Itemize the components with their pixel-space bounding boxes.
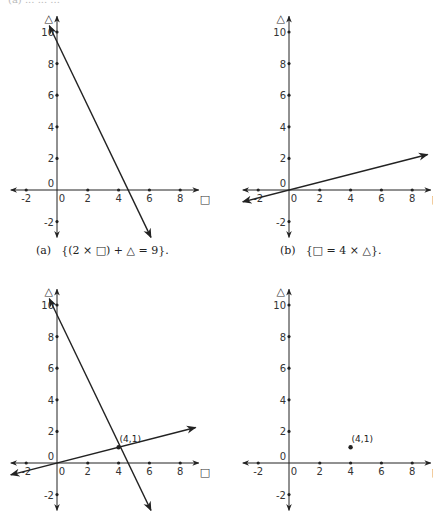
graph-line <box>49 299 151 511</box>
y-tick-dot <box>55 430 58 433</box>
y-tick-label: 2 <box>48 426 54 437</box>
y-tick-dot <box>287 94 290 97</box>
y-tick-label: -2 <box>276 217 286 228</box>
x-tick-label: 0 <box>59 193 65 204</box>
x-tick-label: 8 <box>177 193 183 204</box>
x-tick-dot <box>148 188 151 191</box>
graph-line <box>243 154 428 201</box>
x-tick-label: 0 <box>291 193 297 204</box>
y-tick-label: 8 <box>280 59 286 70</box>
y-tick-label: 0 <box>48 451 54 462</box>
y-tick-label: 4 <box>48 122 54 133</box>
y-tick-dot <box>287 30 290 33</box>
y-tick-dot <box>55 94 58 97</box>
x-tick-dot <box>318 188 321 191</box>
x-tick-dot <box>86 461 89 464</box>
graph-line <box>49 26 151 238</box>
y-tick-label: 0 <box>280 178 286 189</box>
solution-point-label: (4,1) <box>352 434 373 444</box>
y-tick-dot <box>287 125 290 128</box>
x-tick-label: 0 <box>59 466 65 477</box>
charts-svg: -202468-20246810□△-202468-20246810□△-202… <box>0 0 433 515</box>
y-axis-triangle-symbol: △ <box>45 285 54 298</box>
x-axis-square-symbol: □ <box>200 466 210 479</box>
x-tick-label: 4 <box>115 193 121 204</box>
y-tick-label: -2 <box>44 490 54 501</box>
y-tick-label: 6 <box>48 90 54 101</box>
y-tick-dot <box>55 62 58 65</box>
x-tick-dot <box>179 461 182 464</box>
y-axis-triangle-symbol: △ <box>45 12 54 25</box>
y-axis-triangle-symbol: △ <box>277 12 286 25</box>
y-tick-dot <box>287 367 290 370</box>
x-tick-label: 6 <box>378 466 384 477</box>
y-tick-label: 8 <box>48 332 54 343</box>
x-tick-dot <box>86 188 89 191</box>
y-tick-dot <box>287 430 290 433</box>
x-tick-dot <box>117 188 120 191</box>
x-tick-label: 6 <box>146 466 152 477</box>
solution-point <box>348 445 352 449</box>
caption-b-tag: (b) <box>280 244 296 257</box>
y-tick-label: 2 <box>48 153 54 164</box>
y-tick-label: 6 <box>280 90 286 101</box>
y-tick-label: -2 <box>44 217 54 228</box>
y-tick-label: 2 <box>280 153 286 164</box>
caption-a: (a){(2 × □) + △ = 9}. <box>36 244 169 257</box>
x-tick-dot <box>179 188 182 191</box>
x-tick-label: 4 <box>347 466 353 477</box>
x-tick-dot <box>380 188 383 191</box>
y-tick-dot <box>55 367 58 370</box>
y-tick-label: 4 <box>280 395 286 406</box>
chart-panel-b: -202468-20246810□△ <box>243 12 433 237</box>
x-tick-dot <box>411 461 414 464</box>
y-axis-triangle-symbol: △ <box>277 285 286 298</box>
x-tick-label: 6 <box>378 193 384 204</box>
x-tick-dot <box>257 461 260 464</box>
chart-panel-a: -202468-20246810□△ <box>11 12 210 237</box>
y-tick-label: 0 <box>280 451 286 462</box>
y-tick-dot <box>55 493 58 496</box>
y-tick-label: 8 <box>280 332 286 343</box>
x-tick-dot <box>25 461 28 464</box>
y-tick-label: 10 <box>273 300 286 311</box>
x-tick-label: 2 <box>317 193 323 204</box>
y-tick-dot <box>55 220 58 223</box>
y-tick-label: 4 <box>280 122 286 133</box>
y-tick-label: 4 <box>48 395 54 406</box>
x-tick-dot <box>257 188 260 191</box>
x-tick-label: 4 <box>347 193 353 204</box>
x-tick-dot <box>25 188 28 191</box>
x-tick-dot <box>380 461 383 464</box>
y-tick-label: 6 <box>48 363 54 374</box>
chart-panel-d: -202468-20246810□△(4,1) <box>243 285 433 510</box>
caption-b: (b){□ = 4 × △}. <box>280 244 381 257</box>
y-tick-dot <box>287 493 290 496</box>
y-tick-dot <box>287 220 290 223</box>
x-tick-label: 6 <box>146 193 152 204</box>
y-tick-dot <box>287 398 290 401</box>
y-tick-dot <box>55 125 58 128</box>
x-tick-dot <box>349 188 352 191</box>
x-tick-label: 8 <box>409 193 415 204</box>
y-tick-dot <box>55 30 58 33</box>
y-tick-dot <box>287 303 290 306</box>
y-tick-dot <box>55 398 58 401</box>
x-tick-dot <box>318 461 321 464</box>
y-tick-dot <box>287 62 290 65</box>
x-tick-label: -2 <box>21 193 31 204</box>
x-tick-label: 8 <box>409 466 415 477</box>
caption-a-text: {(2 × □) + △ = 9}. <box>61 244 169 257</box>
x-tick-dot <box>148 461 151 464</box>
x-axis-square-symbol: □ <box>200 193 210 206</box>
y-tick-dot <box>55 157 58 160</box>
y-tick-label: 2 <box>280 426 286 437</box>
y-tick-dot <box>55 303 58 306</box>
x-tick-label: 2 <box>317 466 323 477</box>
x-tick-label: 2 <box>85 193 91 204</box>
y-tick-label: 8 <box>48 59 54 70</box>
x-tick-label: 0 <box>291 466 297 477</box>
y-tick-label: -2 <box>276 490 286 501</box>
y-tick-label: 0 <box>48 178 54 189</box>
y-tick-dot <box>55 335 58 338</box>
